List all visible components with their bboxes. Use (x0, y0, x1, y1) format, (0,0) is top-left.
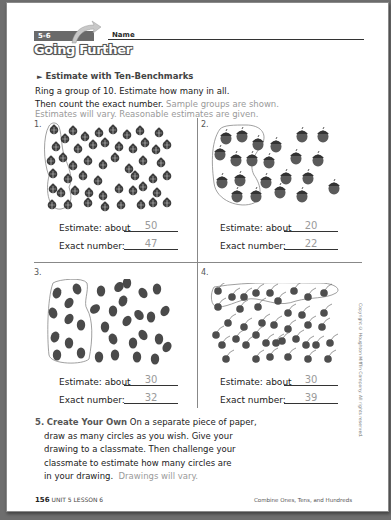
page-number: 156 (35, 496, 50, 504)
estimate-label: Estimate: about (59, 223, 131, 233)
problem-number: 3. (34, 268, 42, 277)
exact-answer[interactable]: 39 (284, 393, 338, 404)
name-field[interactable]: Name (108, 31, 364, 40)
worksheet-page: 5-6 Going Further Name ►Estimate with Te… (6, 2, 389, 512)
cherry-icon (212, 283, 338, 363)
triangle-bullet-icon: ► (37, 73, 42, 81)
leaf-icon (47, 279, 173, 365)
exact-answer[interactable]: 32 (124, 393, 178, 404)
question-text-line-1: On a separate piece of paper, (130, 417, 257, 427)
ladybug-group (43, 121, 193, 213)
name-label: Name (112, 31, 135, 39)
question-text-end: in your drawing. (44, 471, 113, 481)
footer-left: 156 UNIT 5 LESSON 6 (35, 496, 103, 504)
answer-note: Drawings will vary. (119, 471, 198, 481)
question-5: 5. Create Your Own On a separate piece o… (35, 416, 257, 484)
exact-label: Exact number: (59, 395, 125, 405)
copyright-notice: Copyright © Houghton Mifflin Company. Al… (358, 303, 363, 433)
estimate-answer[interactable]: 30 (284, 375, 338, 386)
question-text-line-5: in your drawing. Drawings will vary. (35, 470, 257, 484)
problem-number: 1. (34, 120, 42, 129)
estimate-label: Estimate: about (59, 377, 131, 387)
grid-divider-horizontal (34, 262, 362, 263)
leaf-group (47, 279, 187, 365)
exact-label: Exact number: (220, 241, 286, 251)
estimate-label: Estimate: about (220, 377, 292, 387)
estimate-answer[interactable]: 30 (124, 375, 178, 386)
estimate-answer[interactable]: 50 (124, 221, 178, 232)
question-heading: Create Your Own (47, 417, 127, 427)
acorn-icon (214, 127, 340, 203)
question-number: 5. (35, 417, 44, 427)
section-title-text: Estimate with Ten-Benchmarks (45, 71, 193, 81)
instruction-line-3: Estimates will vary. Reasonable estimate… (35, 109, 258, 119)
problem-number: 4. (201, 268, 209, 277)
question-text-line-3: drawing to a classmate. Then challenge y… (35, 443, 257, 457)
question-text-line-4: classmate to estimate how many circles a… (35, 457, 257, 471)
going-further-banner: Going Further (34, 42, 132, 57)
lesson-label: UNIT 5 LESSON 6 (52, 496, 104, 503)
instruction-line-1: Ring a group of 10. Estimate how many in… (35, 86, 229, 96)
exact-label: Exact number: (220, 395, 286, 405)
problem-number: 2. (201, 120, 209, 129)
instruction-text: Then count the exact number. (35, 99, 163, 109)
ladybug-icon (47, 124, 172, 211)
answer-note: Sample groups are shown. (166, 99, 279, 109)
exact-answer[interactable]: 22 (284, 239, 338, 250)
question-text-line-2: draw as many circles as you wish. Give y… (35, 430, 257, 444)
exact-answer[interactable]: 47 (124, 239, 178, 250)
acorn-group (210, 123, 350, 207)
section-title: ►Estimate with Ten-Benchmarks (37, 71, 193, 81)
grid-divider-vertical (197, 118, 198, 408)
exact-label: Exact number: (59, 241, 125, 251)
instruction-line-2: Then count the exact number. Sample grou… (35, 99, 279, 109)
footer-topic: Combine Ones, Tens, and Hundreds (254, 497, 352, 503)
cherry-group (210, 283, 350, 367)
estimate-answer[interactable]: 20 (284, 221, 338, 232)
estimate-label: Estimate: about (220, 223, 292, 233)
